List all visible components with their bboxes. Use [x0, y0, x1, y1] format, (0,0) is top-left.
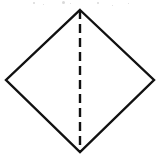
diagram-canvas [0, 0, 161, 162]
fold-diagram [0, 0, 161, 162]
